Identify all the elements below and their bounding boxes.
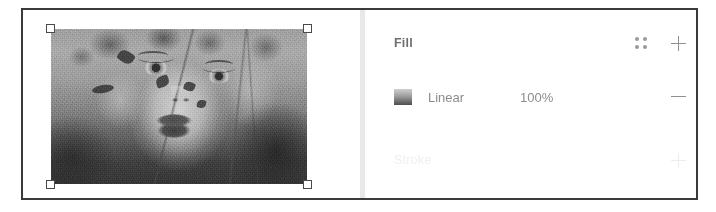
dot [635,37,639,41]
resize-handle-bottom-left[interactable] [46,180,55,189]
app-window: Fill Linear 100% Stroke [21,8,698,200]
dot [643,45,647,49]
fill-opacity-value[interactable]: 100% [520,90,553,105]
selected-image-selection[interactable] [51,29,307,184]
fill-section-title: Fill [394,36,413,50]
dot [635,45,639,49]
fill-type-label[interactable]: Linear [428,90,520,105]
stroke-header-actions [671,153,686,168]
resize-handle-bottom-right[interactable] [303,180,312,189]
portrait-image[interactable] [51,29,307,184]
stroke-section-title: Stroke [394,153,431,167]
resize-handle-top-right[interactable] [303,24,312,33]
fill-row[interactable]: Linear 100% [394,86,694,108]
dots-grid-icon[interactable] [635,37,647,49]
add-stroke-plus-icon[interactable] [671,153,686,168]
fill-section-header: Fill [394,33,694,53]
fill-header-actions [635,36,686,51]
properties-pane: Fill Linear 100% Stroke [365,10,696,198]
remove-fill-minus-icon[interactable] [671,89,686,104]
canvas-pane[interactable] [23,10,360,198]
stroke-section-header: Stroke [394,150,694,170]
add-fill-plus-icon[interactable] [671,36,686,51]
dot [643,37,647,41]
artwork-grain-layer-2 [51,29,307,184]
linear-gradient-swatch[interactable] [394,89,412,105]
resize-handle-top-left[interactable] [46,24,55,33]
